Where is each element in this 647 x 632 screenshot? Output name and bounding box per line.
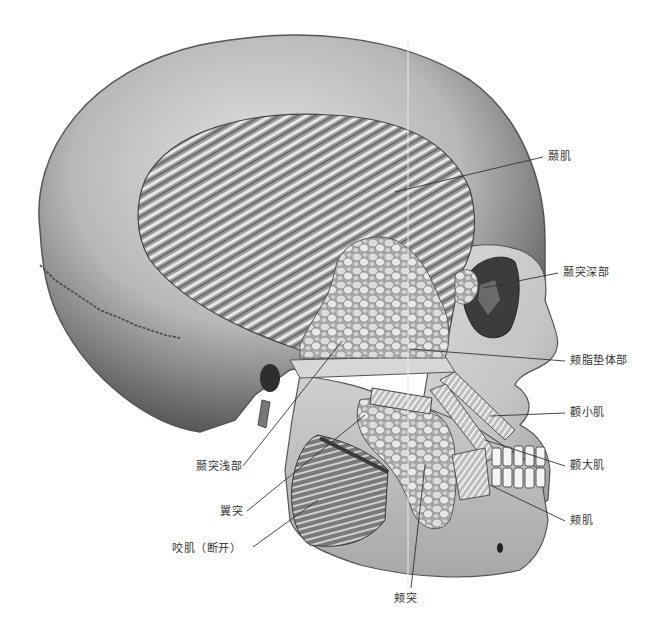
label-pterygoid-extension: 翼突: [220, 505, 243, 518]
label-buccinator: 颊肌: [570, 514, 593, 527]
label-temporalis: 颞肌: [548, 150, 571, 163]
label-temporal-extension-deep: 颞突深部: [563, 266, 609, 279]
label-zygomaticus-major: 颧大肌: [570, 459, 605, 472]
label-masseter-cut: 咬肌（断开）: [172, 542, 241, 555]
skull-drawing: [0, 0, 647, 632]
external-auditory-meatus: [260, 364, 280, 392]
label-buccal-extension: 颊突: [394, 592, 417, 605]
mental-foramen: [497, 543, 503, 553]
label-zygomaticus-minor: 颧小肌: [570, 406, 605, 419]
label-temporal-extension-superficial: 颞突浅部: [196, 460, 242, 473]
anatomy-illustration: 颞肌颞突深部颊脂垫体部颧小肌颧大肌颊肌颞突浅部翼突咬肌（断开）颊突: [0, 0, 647, 632]
label-buccal-fat-body: 颊脂垫体部: [570, 354, 628, 367]
